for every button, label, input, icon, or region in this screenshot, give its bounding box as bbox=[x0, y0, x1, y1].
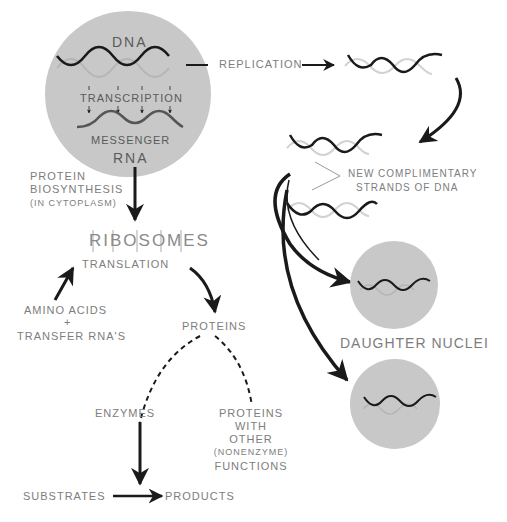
replication-curve-arrow bbox=[420, 78, 461, 142]
products-label: PRODUCTS bbox=[165, 490, 235, 502]
curve-to-nucleus-2 bbox=[283, 190, 347, 380]
proteins-label: PROTEINS bbox=[182, 320, 246, 332]
other-proteins-line5: FUNCTIONS bbox=[211, 460, 291, 472]
replication-label: REPLICATION bbox=[219, 58, 303, 70]
other-proteins-line4: (NONENZYME) bbox=[206, 447, 296, 457]
protein-label: PROTEIN bbox=[30, 170, 86, 182]
dna-label: DNA bbox=[112, 34, 148, 50]
new-strands-line2: STRANDS OF DNA bbox=[356, 182, 458, 193]
ribosomes-label: RIBOSOMES bbox=[89, 231, 210, 251]
translation-label: TRANSLATION bbox=[82, 258, 169, 270]
amino-acids-arrow bbox=[55, 268, 73, 300]
in-cytoplasm-label: (IN CYTOPLASM) bbox=[30, 198, 117, 208]
other-proteins-line3: OTHER bbox=[216, 433, 286, 445]
enzymes-label: ENZYMES bbox=[95, 407, 155, 419]
dashed-to-other bbox=[215, 336, 252, 406]
other-proteins-line2: WITH bbox=[216, 420, 286, 432]
biosynthesis-label: BIOSYNTHESIS bbox=[30, 183, 123, 195]
rna-label: RNA bbox=[113, 150, 149, 166]
amino-acids-label: AMINO ACIDS bbox=[24, 304, 107, 316]
plus-label: + bbox=[64, 316, 71, 328]
replicated-dna-icon bbox=[345, 54, 442, 74]
messenger-label: MESSENGER bbox=[91, 134, 170, 146]
other-proteins-line1: PROTEINS bbox=[216, 407, 286, 419]
transcription-label: TRANSCRIPTION bbox=[80, 92, 183, 104]
daughter-nuclei-label: DAUGHTER NUCLEI bbox=[340, 335, 489, 351]
bracket-line bbox=[312, 162, 340, 190]
new-strand-lower-icon bbox=[287, 202, 377, 218]
translation-arrow bbox=[190, 268, 215, 312]
substrates-label: SUBSTRATES bbox=[23, 490, 106, 502]
new-strands-line1: NEW COMPLIMENTARY bbox=[348, 168, 477, 179]
new-strand-upper-icon bbox=[287, 134, 382, 155]
daughter-nucleus-2 bbox=[350, 359, 440, 449]
transfer-rna-label: TRANSFER RNA'S bbox=[17, 330, 126, 342]
